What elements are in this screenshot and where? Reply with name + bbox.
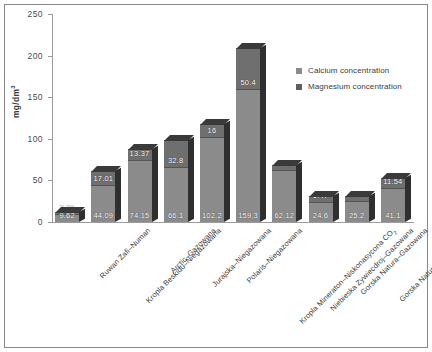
bar-value-magnesium: 16 <box>200 126 224 135</box>
x-axis-label: Arctic–Gazowana <box>168 226 217 275</box>
bar-segment-divider <box>200 137 224 138</box>
legend-item-calcium: Calcium concentration <box>296 66 402 75</box>
bar-side-face <box>152 146 158 222</box>
legend-label-calcium: Calcium concentration <box>308 66 389 75</box>
bar-value-calcium: 41.1 <box>381 211 405 220</box>
stacked-column[interactable]: 50.4159.3 <box>236 48 260 222</box>
y-tick-label: 100 <box>28 134 43 144</box>
bar-value-magnesium: 17.01 <box>91 174 115 183</box>
stacked-column[interactable]: 6.4725.2 <box>345 196 369 222</box>
bar-value-calcium: 25.2 <box>345 211 369 220</box>
bar-side-face <box>79 209 85 222</box>
bar-side-face <box>333 193 339 222</box>
bar-segment-magnesium[interactable]: 17.01 <box>91 171 115 185</box>
stacked-column[interactable]: 6.0862.12 <box>272 165 296 222</box>
bar-side-face <box>188 137 194 222</box>
bar-value-magnesium: 32.8 <box>164 156 188 165</box>
stacked-column[interactable]: 6.4724.6 <box>309 196 333 222</box>
bar-value-calcium: 62.12 <box>272 211 296 220</box>
bar-segment-calcium[interactable]: 62.12 <box>272 170 296 222</box>
bar-side-face <box>369 192 375 222</box>
bar-side-face <box>115 168 121 222</box>
bar-segment-divider <box>164 167 188 168</box>
bar-segment-divider <box>91 185 115 186</box>
bar-value-calcium: 74.15 <box>128 211 152 220</box>
x-axis-label: Ruwan Zafi–Numan <box>98 226 152 280</box>
chart-figure: mg/dm3 050100150200250 2.219.6217.0144.0… <box>0 0 432 352</box>
bar-segment-magnesium[interactable]: 13.37 <box>128 149 152 160</box>
stacked-column[interactable]: 2.219.62 <box>55 212 79 222</box>
x-axis-label: Polaris–Niegazowana <box>245 226 304 285</box>
bar-value-magnesium: 50.4 <box>236 78 260 87</box>
bar-segment-calcium[interactable]: 74.15 <box>128 160 152 222</box>
bar-segment-calcium[interactable]: 9.62 <box>55 214 79 222</box>
stacked-column[interactable]: 16102.2 <box>200 124 224 222</box>
y-tick-label: 200 <box>28 51 43 61</box>
x-axis-line <box>52 222 414 223</box>
legend-swatch-calcium-icon <box>296 68 302 74</box>
bar-series-container: 2.219.6217.0144.0913.3774.1532.866.11610… <box>52 14 414 222</box>
bar-value-calcium: 66.1 <box>164 211 188 220</box>
stacked-column[interactable]: 11.5441.1 <box>381 178 405 222</box>
bar-value-calcium: 159.3 <box>236 211 260 220</box>
bar-value-calcium: 44.09 <box>91 211 115 220</box>
bar-segment-calcium[interactable]: 102.2 <box>200 137 224 222</box>
bar-value-calcium: 24.6 <box>309 211 333 220</box>
bar-segment-divider <box>381 188 405 189</box>
bar-side-face <box>224 120 230 222</box>
bar-segment-calcium[interactable]: 41.1 <box>381 188 405 222</box>
y-axis-title-text: mg/dm <box>11 89 21 118</box>
bar-segment-divider <box>345 201 369 202</box>
bar-segment-divider <box>236 89 260 90</box>
bar-side-face <box>405 175 411 222</box>
y-tick: 0 <box>48 222 53 223</box>
y-axis-title-exponent: 3 <box>10 85 16 89</box>
y-axis-title: mg/dm3 <box>10 85 21 118</box>
stacked-column[interactable]: 32.866.1 <box>164 140 188 222</box>
legend-label-magnesium: Magnesium concentration <box>308 82 402 91</box>
bar-segment-magnesium[interactable]: 50.4 <box>236 48 260 90</box>
stacked-column[interactable]: 13.3774.15 <box>128 149 152 222</box>
legend-item-magnesium: Magnesium concentration <box>296 82 402 91</box>
bar-side-face <box>260 44 266 222</box>
bar-segment-magnesium[interactable]: 16 <box>200 124 224 137</box>
bar-segment-divider <box>309 202 333 203</box>
legend-swatch-magnesium-icon <box>296 84 302 90</box>
x-axis-labels: Ruwan Zafi–NumanKropla Beskidu–Niegazowa… <box>52 224 414 348</box>
bar-value-calcium: 102.2 <box>200 211 224 220</box>
bar-side-face <box>296 162 302 222</box>
y-tick-label: 0 <box>38 217 43 227</box>
bar-segment-divider <box>128 160 152 161</box>
chart-legend: Calcium concentration Magnesium concentr… <box>296 66 402 98</box>
y-tick-label: 250 <box>28 9 43 19</box>
bar-segment-calcium[interactable]: 24.6 <box>309 202 333 222</box>
bar-segment-divider <box>272 170 296 171</box>
bar-segment-magnesium[interactable]: 11.54 <box>381 178 405 188</box>
bar-segment-calcium[interactable]: 44.09 <box>91 185 115 222</box>
bar-segment-magnesium[interactable]: 32.8 <box>164 140 188 167</box>
bar-segment-calcium[interactable]: 66.1 <box>164 167 188 222</box>
y-tick-label: 50 <box>33 175 43 185</box>
bar-value-calcium: 9.62 <box>55 211 79 220</box>
bar-segment-calcium[interactable]: 159.3 <box>236 89 260 222</box>
stacked-column[interactable]: 17.0144.09 <box>91 171 115 222</box>
y-tick-label: 150 <box>28 92 43 102</box>
bar-segment-calcium[interactable]: 25.2 <box>345 201 369 222</box>
bar-value-magnesium: 13.37 <box>128 149 152 158</box>
